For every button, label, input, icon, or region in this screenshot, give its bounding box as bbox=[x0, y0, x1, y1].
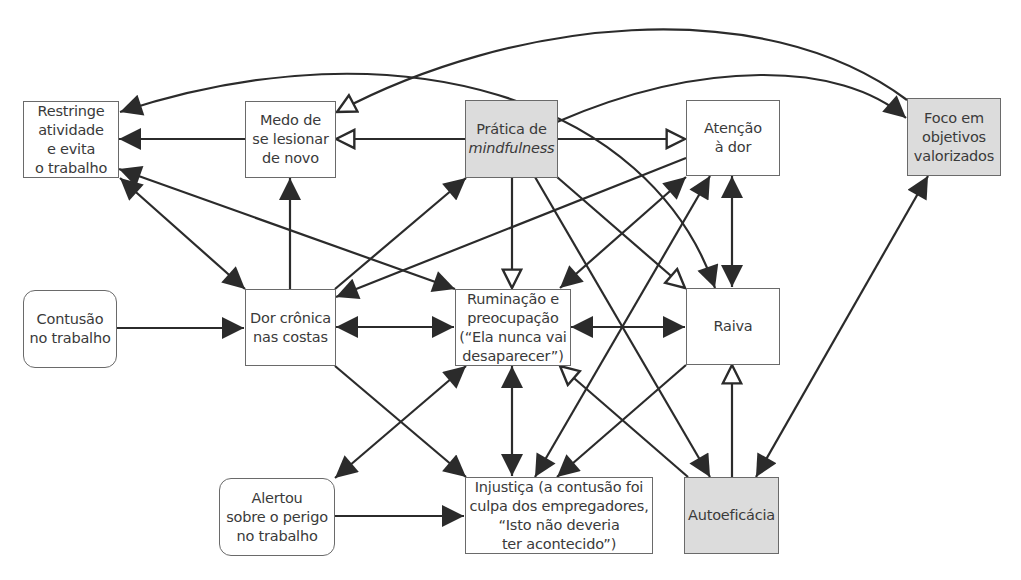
node-foco-label: Foco em objetivos valorizados bbox=[914, 109, 994, 166]
node-injustica-label: Injustiça (a contusão foi culpa dos empr… bbox=[469, 478, 648, 554]
node-restringe-label: Restringe atividade e evita o trabalho bbox=[35, 102, 107, 178]
node-injustica: Injustiça (a contusão foi culpa dos empr… bbox=[465, 477, 653, 554]
node-foco: Foco em objetivos valorizados bbox=[907, 98, 1001, 176]
node-autoeficacia-label: Autoeficácia bbox=[688, 506, 775, 525]
node-pratica-label-line2: mindfulness bbox=[469, 140, 555, 156]
node-contusao-label: Contusão no trabalho bbox=[29, 310, 110, 348]
node-dor-label: Dor crônica nas costas bbox=[250, 309, 331, 347]
node-ruminacao-label: Ruminação e preocupação (“Ela nunca vai … bbox=[459, 290, 566, 366]
node-contusao: Contusão no trabalho bbox=[23, 290, 117, 368]
node-raiva: Raiva bbox=[686, 288, 780, 365]
node-pratica-label: Prática demindfulness bbox=[469, 120, 555, 158]
node-restringe: Restringe atividade e evita o trabalho bbox=[23, 101, 119, 178]
edge-dor-restringe bbox=[120, 178, 245, 289]
node-medo-label: Medo de se lesionar de novo bbox=[252, 111, 328, 168]
node-atencao-label: Atenção à dor bbox=[704, 119, 762, 157]
edge-raiva-injustica bbox=[557, 365, 686, 477]
edge-foco-autoeficacia bbox=[756, 176, 928, 477]
node-pratica-mindfulness: Prática demindfulness bbox=[465, 100, 558, 178]
node-alertou: Alertou sobre o perigo no trabalho bbox=[219, 478, 335, 556]
node-pratica-label-line1: Prática de bbox=[476, 121, 547, 137]
node-autoeficacia: Autoeficácia bbox=[684, 477, 779, 554]
node-ruminacao: Ruminação e preocupação (“Ela nunca vai … bbox=[455, 289, 571, 366]
node-medo: Medo de se lesionar de novo bbox=[245, 101, 336, 178]
edge-autoeficacia-ruminacao bbox=[560, 366, 688, 477]
node-alertou-label: Alertou sobre o perigo no trabalho bbox=[226, 489, 328, 546]
node-dor-cronica: Dor crônica nas costas bbox=[245, 289, 336, 366]
edge-foco-medo bbox=[337, 29, 907, 112]
node-raiva-label: Raiva bbox=[713, 317, 752, 336]
node-atencao: Atenção à dor bbox=[686, 100, 780, 176]
